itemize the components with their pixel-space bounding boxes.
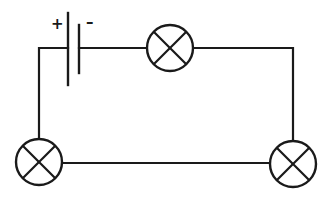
wire-left — [39, 48, 68, 139]
bulb-bottom-left — [16, 139, 62, 185]
battery-positive-label: + — [51, 15, 64, 33]
bulb-top — [147, 25, 193, 71]
battery-negative-label: – — [86, 13, 94, 31]
circuit-diagram: + – — [0, 0, 326, 203]
wire-right — [193, 48, 293, 141]
bulb-bottom-right — [270, 141, 316, 187]
